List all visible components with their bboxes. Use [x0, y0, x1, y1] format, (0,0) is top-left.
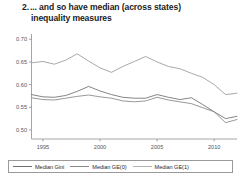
legend-item-median-gini: Median Gini: [13, 164, 64, 170]
x-axis-tick-label: 2000: [94, 144, 106, 150]
x-axis-tick-label: 2005: [151, 144, 163, 150]
legend-label-median-gini: Median Gini: [35, 164, 64, 170]
y-axis-tick-label: 0.60: [16, 82, 27, 88]
y-axis-tick-label: 0.70: [16, 36, 27, 42]
y-axis-tick-label: 0.65: [16, 59, 27, 65]
series-line-median-ge-0: [32, 86, 238, 118]
legend-label-median-ge0: Median GE(0): [92, 164, 126, 170]
legend-line-swatch-icon: [13, 166, 32, 167]
x-axis-tick-label: 2010: [208, 144, 220, 150]
series-line-median-gini: [32, 54, 238, 95]
series-line-median-ge-1: [32, 95, 238, 123]
inequality-measures-figure: 2.... and so have median (across states)…: [0, 0, 241, 174]
legend-item-median-ge0: Median GE(0): [70, 164, 126, 170]
x-axis-tick-label: 1995: [37, 144, 49, 150]
legend-label-median-ge1: Median GE(1): [155, 164, 189, 170]
line-chart-plot: 0.500.550.600.650.701995200020052010: [0, 0, 241, 174]
legend-line-swatch-icon: [70, 166, 89, 167]
chart-legend: Median Gini Median GE(0) Median GE(1): [8, 160, 233, 173]
y-axis-tick-label: 0.55: [16, 104, 27, 110]
y-axis-tick-label: 0.50: [16, 127, 27, 133]
legend-item-median-ge1: Median GE(1): [133, 164, 189, 170]
legend-line-swatch-icon: [133, 166, 152, 167]
